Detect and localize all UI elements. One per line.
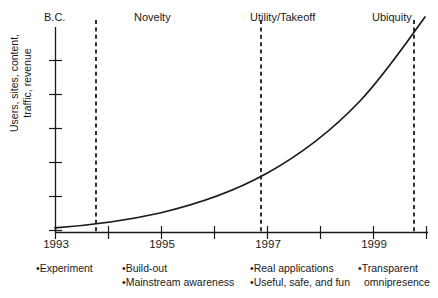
annotation-real-applications: •Real applications	[250, 262, 350, 276]
y-axis-label-line-2: traffic, revenue	[21, 8, 34, 158]
annotation-useful-safe-fun: •Useful, safe, and fun	[250, 276, 350, 290]
annotation-column-buildout: •Build-out •Mainstream awareness	[122, 262, 234, 289]
x-tick-label-1999: 1999	[361, 238, 387, 251]
annotation-mainstream-awareness: •Mainstream awareness	[122, 276, 234, 290]
annotation-column-transparent-omnipresence: •Transparent omnipresence	[358, 262, 430, 289]
annotation-column-real-applications: •Real applications •Useful, safe, and fu…	[250, 262, 350, 289]
annotation-omnipresence: omnipresence	[358, 276, 430, 290]
era-label-novelty: Novelty	[134, 11, 171, 23]
era-label-ubiquity: Ubiquity	[372, 11, 412, 23]
annotation-column-experiment: •Experiment	[36, 262, 93, 276]
x-tick-label-1997: 1997	[255, 238, 281, 251]
era-label-utility-takeoff: Utility/Takeoff	[250, 11, 315, 23]
y-axis-label: Users, sites, content, traffic, revenue	[8, 8, 38, 158]
annotation-transparent: •Transparent	[358, 262, 430, 276]
chart-plot-area	[0, 0, 438, 298]
era-label-bc: B.C.	[44, 11, 65, 23]
x-tick-label-1993: 1993	[43, 238, 69, 251]
y-axis-label-line-1: Users, sites, content,	[8, 8, 21, 158]
annotation-build-out: •Build-out	[122, 262, 234, 276]
growth-curve-path	[55, 17, 425, 228]
x-tick-label-1995: 1995	[149, 238, 175, 251]
annotation-experiment: •Experiment	[36, 262, 93, 276]
phase-divider-lines	[96, 20, 414, 233]
growth-curve-chart: B.C. Novelty Utility/Takeoff Ubiquity Us…	[0, 0, 438, 298]
